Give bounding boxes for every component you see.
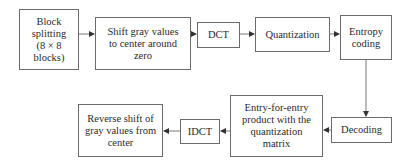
node-label: Shift gray values to center around zero	[107, 26, 178, 62]
node-quantization: Quantization	[255, 17, 330, 52]
node-label: Entry-for-entry product with the quantiz…	[242, 102, 311, 150]
node-label: Reverse shift of gray values from center	[85, 113, 156, 149]
node-entropy-coding: Entropy coding	[340, 15, 392, 60]
node-shift-gray-values: Shift gray values to center around zero	[95, 17, 191, 70]
node-label: DCT	[208, 29, 229, 41]
node-entry-for-entry-product: Entry-for-entry product with the quantiz…	[230, 95, 323, 157]
node-label: Entropy coding	[349, 26, 383, 50]
node-label: Decoding	[341, 124, 382, 136]
node-idct: IDCT	[180, 119, 220, 144]
node-label: Quantization	[265, 29, 319, 41]
node-label: Block splitting (8 × 8 blocks)	[32, 16, 66, 64]
node-reverse-shift: Reverse shift of gray values from center	[78, 104, 163, 157]
node-block-splitting: Block splitting (8 × 8 blocks)	[19, 9, 79, 70]
node-dct: DCT	[197, 22, 240, 48]
node-decoding: Decoding	[331, 117, 392, 143]
node-label: IDCT	[188, 126, 213, 138]
